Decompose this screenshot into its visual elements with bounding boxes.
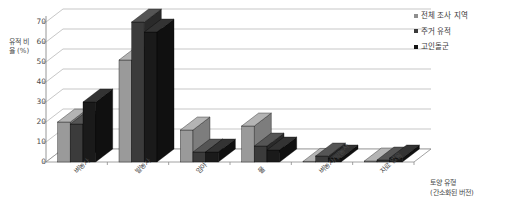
gridline bbox=[46, 9, 431, 22]
legend-swatch-icon bbox=[414, 45, 418, 49]
x-axis-title-line2: (간소화된 버전) bbox=[430, 189, 474, 199]
bar-front-face bbox=[316, 156, 329, 162]
x-axis-title-line1: 토양 유형 bbox=[430, 179, 474, 189]
bar-front-face bbox=[70, 124, 83, 162]
legend-label: 고인돌군 bbox=[421, 42, 449, 51]
legend-item[interactable]: 고인돌군 bbox=[414, 42, 509, 51]
bar-front-face bbox=[144, 32, 157, 162]
bar-front-face bbox=[83, 102, 96, 162]
legend-label: 전체 조사 지역 bbox=[421, 11, 468, 20]
bar-chart: 유적 비율 (%) 010203040506070 벼농사밭농사임야물벼농사/밭… bbox=[0, 0, 509, 221]
bar-front-face bbox=[242, 126, 255, 162]
legend-label: 주거 유적 bbox=[421, 27, 451, 36]
bar-front-face bbox=[119, 60, 132, 162]
legend-swatch-icon bbox=[414, 14, 418, 18]
bar-front-face bbox=[390, 158, 403, 162]
bar-front-face bbox=[206, 152, 219, 162]
gridline bbox=[46, 69, 431, 82]
bar-front-face bbox=[132, 22, 145, 162]
bar-front-face bbox=[254, 146, 267, 162]
bar-front-face bbox=[193, 152, 206, 162]
bar-front-face bbox=[377, 160, 390, 162]
gridline bbox=[46, 29, 431, 42]
bar-front-face bbox=[267, 150, 280, 162]
bar-side-face bbox=[157, 19, 174, 162]
bar-0-2 bbox=[83, 89, 113, 162]
x-axis-title: 토양 유형 (간소화된 버전) bbox=[430, 179, 474, 198]
gridline bbox=[46, 49, 431, 62]
chart-legend: 전체 조사 지역주거 유적고인돌군 bbox=[414, 11, 509, 58]
legend-swatch-icon bbox=[414, 29, 418, 33]
legend-item[interactable]: 전체 조사 지역 bbox=[414, 11, 509, 20]
bar-front-face bbox=[180, 130, 193, 162]
bar-front-face bbox=[58, 122, 71, 162]
bar-1-2 bbox=[144, 19, 174, 162]
bar-front-face bbox=[328, 158, 341, 162]
legend-item[interactable]: 주거 유적 bbox=[414, 27, 509, 36]
